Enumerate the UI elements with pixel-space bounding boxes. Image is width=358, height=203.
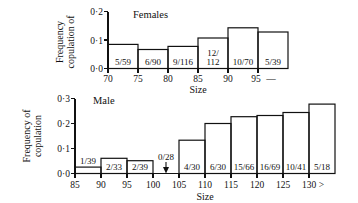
male-bar-label-85-90: 1/39 bbox=[80, 156, 97, 166]
male-xtick-100: 100 bbox=[146, 180, 161, 190]
male-xtick-130-open: 130 > bbox=[302, 180, 324, 190]
females-xtick-90: 90 bbox=[223, 74, 233, 84]
females-bar-label-90-95: 10/70 bbox=[233, 57, 254, 67]
male-xtick-120: 120 bbox=[250, 180, 265, 190]
male-bar-label-120-125: 16/69 bbox=[260, 162, 281, 172]
male-chart-svg: Frequency of copulation 0·3 0·2 0·1 0·0 bbox=[0, 88, 358, 203]
male-panel-title: Male bbox=[93, 95, 115, 106]
male-bar-label-90-95: 2/33 bbox=[106, 162, 123, 172]
chart-panel-females: Frequency copulation of 0·2 0·1 0·0 bbox=[0, 0, 358, 95]
females-bar-label-80-85: 9/116 bbox=[173, 57, 194, 67]
male-xtick-95: 95 bbox=[122, 180, 132, 190]
females-panel-title: Females bbox=[133, 9, 168, 20]
male-xtick-90: 90 bbox=[96, 180, 106, 190]
females-ytick-0.1: 0·1 bbox=[90, 36, 103, 46]
male-ytick-0.2: 0·2 bbox=[57, 119, 70, 129]
male-xtick-115: 115 bbox=[224, 180, 238, 190]
females-xtick-95: 95 bbox=[251, 74, 261, 84]
male-xtick-85: 85 bbox=[70, 180, 80, 190]
male-x-axis-label: Size bbox=[196, 191, 214, 202]
females-ytick-0.0: 0·0 bbox=[90, 64, 103, 74]
females-xtick-80: 80 bbox=[163, 74, 173, 84]
male-zero-bin-label: 0/28 bbox=[158, 152, 175, 162]
male-ytick-0.3: 0·3 bbox=[57, 94, 70, 104]
females-y-axis-label-line1: Frequency bbox=[54, 21, 65, 63]
male-zero-bin-arrow-head bbox=[163, 167, 169, 174]
females-bar-label-70-75: 5/59 bbox=[115, 57, 132, 67]
females-chart-svg: Frequency copulation of 0·2 0·1 0·0 bbox=[0, 0, 358, 95]
chart-panel-male: Frequency of copulation 0·3 0·2 0·1 0·0 bbox=[0, 88, 358, 203]
females-ytick-0.2: 0·2 bbox=[90, 7, 103, 17]
figure-copulation-frequency: Frequency copulation of 0·2 0·1 0·0 bbox=[0, 0, 358, 203]
male-bar-label-95-100: 2/39 bbox=[132, 162, 149, 172]
females-xtick-85: 85 bbox=[193, 74, 203, 84]
male-bar-label-130-plus: 5/18 bbox=[314, 162, 331, 172]
females-bar-label-95-plus: 5/39 bbox=[265, 57, 282, 67]
females-y-axis-label-line2: copulation of bbox=[65, 15, 76, 69]
male-xtick-125: 125 bbox=[276, 180, 291, 190]
male-y-axis-label-line2: copulation bbox=[32, 115, 43, 157]
male-xtick-110: 110 bbox=[198, 180, 212, 190]
male-ytick-0.1: 0·1 bbox=[57, 144, 70, 154]
male-ytick-0.0: 0·0 bbox=[57, 169, 70, 179]
females-xtick-70: 70 bbox=[103, 74, 113, 84]
male-xtick-105: 105 bbox=[172, 180, 187, 190]
male-bar-label-105-110: 4/30 bbox=[184, 162, 201, 172]
females-xtick-75: 75 bbox=[133, 74, 143, 84]
male-bar-label-110-115: 6/30 bbox=[210, 162, 227, 172]
male-y-axis-label-line1: Frequency of bbox=[21, 109, 32, 163]
male-bar-85-90 bbox=[75, 167, 101, 173]
females-bar-label-75-80: 6/90 bbox=[145, 57, 162, 67]
females-bar-label-85-90-line2: 112 bbox=[206, 57, 219, 67]
male-bar-label-115-120: 15/66 bbox=[234, 162, 255, 172]
females-x-open-end-marker: — bbox=[265, 74, 276, 84]
male-bar-label-125-130: 10/41 bbox=[286, 162, 307, 172]
